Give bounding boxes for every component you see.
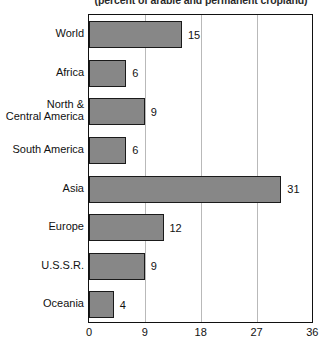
bar-ussr[interactable] <box>89 253 145 280</box>
category-label-north-central-america: North & Central America <box>0 91 84 130</box>
category-label-line: Africa <box>56 66 84 79</box>
bar-value-asia: 31 <box>287 183 299 195</box>
bar-row: 12 <box>89 214 312 241</box>
category-label-europe: Europe <box>0 207 84 246</box>
category-label-line: Oceania <box>43 297 84 310</box>
x-tick-36: 36 <box>306 326 318 338</box>
x-axis-tick-labels: 0 9 18 27 36 <box>0 326 327 346</box>
bar-value-ussr: 9 <box>151 260 157 272</box>
category-label-line: South America <box>12 143 84 156</box>
bar-value-north-central-america: 9 <box>151 106 157 118</box>
category-label-line: World <box>55 27 84 40</box>
bars-layer: 15 6 9 6 31 12 <box>89 15 312 322</box>
bar-row: 6 <box>89 137 312 164</box>
bar-row: 9 <box>89 98 312 125</box>
category-axis-labels: World Africa North & Central America Sou… <box>0 14 84 323</box>
bar-north-central-america[interactable] <box>89 98 145 125</box>
category-label-asia: Asia <box>0 169 84 208</box>
bar-row: 31 <box>89 176 312 203</box>
category-label-line: North & <box>47 98 84 111</box>
bar-asia[interactable] <box>89 176 281 203</box>
x-tick-9: 9 <box>142 326 148 338</box>
chart-title: (percent of arable and permanent croplan… <box>88 0 314 6</box>
category-label-line: U.S.S.R. <box>41 259 84 272</box>
category-label-line: Central America <box>6 110 84 123</box>
x-tick-18: 18 <box>195 326 207 338</box>
bar-africa[interactable] <box>89 60 126 87</box>
category-label-africa: Africa <box>0 53 84 92</box>
bar-value-south-america: 6 <box>132 144 138 156</box>
bar-value-world: 15 <box>188 29 200 41</box>
bar-oceania[interactable] <box>89 291 114 318</box>
category-label-line: Asia <box>63 182 84 195</box>
category-label-oceania: Oceania <box>0 284 84 323</box>
bar-south-america[interactable] <box>89 137 126 164</box>
bar-value-africa: 6 <box>132 67 138 79</box>
bar-row: 4 <box>89 291 312 318</box>
bar-row: 9 <box>89 253 312 280</box>
bar-row: 15 <box>89 21 312 48</box>
bar-chart: (percent of arable and permanent croplan… <box>0 0 327 346</box>
bar-row: 6 <box>89 60 312 87</box>
bar-world[interactable] <box>89 21 182 48</box>
bar-value-europe: 12 <box>170 222 182 234</box>
category-label-world: World <box>0 14 84 53</box>
category-label-south-america: South America <box>0 130 84 169</box>
x-tick-27: 27 <box>250 326 262 338</box>
bar-value-oceania: 4 <box>120 299 126 311</box>
category-label-ussr: U.S.S.R. <box>0 246 84 285</box>
plot-area: 15 6 9 6 31 12 <box>88 14 313 323</box>
category-label-line: Europe <box>49 220 84 233</box>
x-tick-0: 0 <box>86 326 92 338</box>
bar-europe[interactable] <box>89 214 164 241</box>
